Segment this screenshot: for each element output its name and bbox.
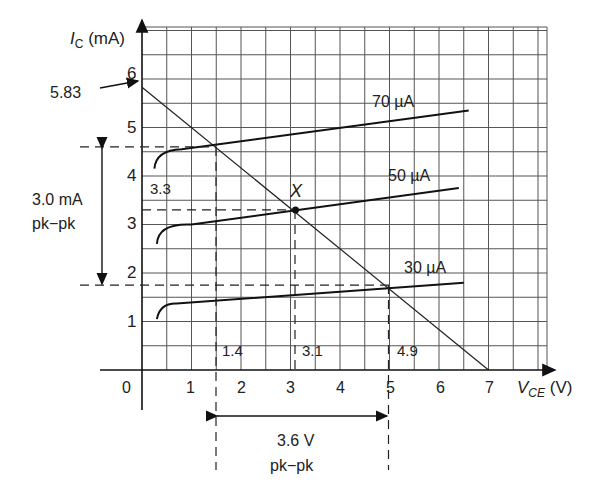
svg-text:30 µA: 30 µA (404, 259, 446, 276)
svg-text:70 µA: 70 µA (372, 93, 414, 110)
svg-text:pk−pk: pk−pk (32, 215, 76, 232)
curve-50ua (157, 188, 459, 244)
svg-text:7: 7 (485, 379, 494, 396)
svg-text:6: 6 (127, 64, 136, 83)
svg-text:6: 6 (436, 379, 445, 396)
y-axis-label: IC (mA) (70, 29, 125, 51)
transistor-characteristics-chart: X IC (mA) VCE (V) 0 1 2 3 4 5 6 7 1 2 3 … (0, 0, 610, 492)
svg-text:3.3: 3.3 (150, 180, 171, 197)
svg-text:1: 1 (186, 379, 195, 396)
svg-text:3: 3 (286, 379, 295, 396)
dashed-projections (80, 147, 389, 470)
svg-text:1: 1 (127, 312, 136, 331)
operating-point-x (292, 206, 299, 213)
svg-text:4.9: 4.9 (397, 342, 418, 359)
svg-text:2: 2 (127, 263, 136, 282)
svg-text:3.1: 3.1 (302, 342, 323, 359)
grid (142, 27, 547, 370)
x-axis-label: VCE (V) (517, 378, 572, 400)
svg-text:0: 0 (122, 379, 131, 396)
y-tick-labels: 1 2 3 4 5 6 (127, 64, 136, 331)
svg-text:pk−pk: pk−pk (270, 457, 314, 474)
svg-text:5.83: 5.83 (50, 84, 81, 101)
svg-text:4: 4 (127, 166, 136, 185)
svg-text:50 µA: 50 µA (388, 167, 430, 184)
svg-text:5: 5 (386, 379, 395, 396)
curve-70ua (154, 111, 468, 169)
svg-text:3: 3 (127, 214, 136, 233)
svg-text:2: 2 (237, 379, 246, 396)
curve-30ua (157, 283, 464, 319)
operating-point-label: X (289, 181, 303, 201)
svg-text:3.0 mA: 3.0 mA (32, 191, 83, 208)
svg-text:3.6 V: 3.6 V (277, 432, 315, 449)
svg-text:1.4: 1.4 (222, 342, 243, 359)
svg-text:4: 4 (336, 379, 345, 396)
x-tick-labels: 0 1 2 3 4 5 6 7 (122, 379, 494, 396)
svg-text:5: 5 (127, 118, 136, 137)
